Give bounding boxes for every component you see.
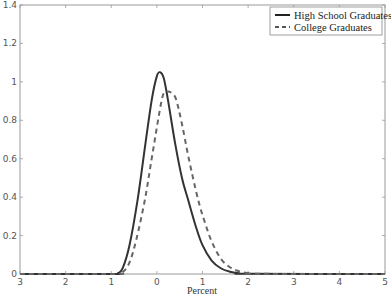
y-tick-label: 1 <box>11 77 17 87</box>
legend-label-college: College Graduates <box>294 22 372 33</box>
x-tick-label: 2 <box>245 277 251 287</box>
x-tick-label: 1 <box>108 277 114 287</box>
x-tick-label: 4 <box>337 277 343 287</box>
x-tick-label: 3 <box>291 277 297 287</box>
x-tick-label: 2 <box>63 277 69 287</box>
y-tick-label: 0.8 <box>3 115 18 125</box>
legend: High School Graduates College Graduates <box>270 7 391 35</box>
kernel-density-chart: 321012345 00.20.40.60.811.21.4 Percent H… <box>0 0 391 298</box>
x-axis-title: Percent <box>187 285 217 296</box>
x-tick-label: 0 <box>154 277 160 287</box>
y-tick-label: 0 <box>11 269 17 279</box>
y-tick-label: 0.2 <box>3 231 17 241</box>
y-tick-label: 1.2 <box>3 38 17 48</box>
x-tick-label: 5 <box>382 277 388 287</box>
y-tick-label: 0.6 <box>3 154 18 164</box>
y-tick-label: 1.4 <box>3 0 18 10</box>
y-tick-label: 0.4 <box>3 192 18 202</box>
plot-frame <box>20 5 385 274</box>
x-tick-label: 3 <box>17 277 23 287</box>
legend-label-high-school: High School Graduates <box>294 10 391 21</box>
